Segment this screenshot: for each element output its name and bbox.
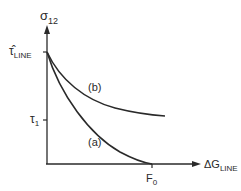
y-axis-arrow-icon [44,25,50,34]
y-axis-label: σ12 [40,8,58,26]
curve-b [47,52,165,116]
y-tick-label-tau1: τ1 [30,112,40,128]
diagram-canvas: σ12 τ̂LINE τ1 F0 ΔGLINE (b) (a) [0,0,241,191]
x-axis-label: ΔGLINE [204,158,238,173]
x-axis-arrow-icon [192,161,201,167]
curve-b-label: (b) [88,81,101,93]
curve-a-label: (a) [88,136,101,148]
x-tick-label-f0: F0 [146,172,158,187]
y-tick-label-tau-line: τ̂LINE [9,44,32,60]
